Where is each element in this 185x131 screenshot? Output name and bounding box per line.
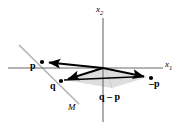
point-label-q: q <box>50 81 56 91</box>
subspace-line-m <box>19 45 79 104</box>
subspace-label-m: M <box>68 103 76 112</box>
point-dot-p <box>40 60 44 64</box>
x1-axis-label: x1 <box>165 60 172 71</box>
point-label-p: p <box>30 61 36 71</box>
diagram-canvas <box>0 0 185 131</box>
x1-axis-label-sub: 1 <box>169 64 172 71</box>
vector-diagram-figure: x2 x1 p q –p q – p M <box>0 0 185 131</box>
difference-label-q-minus-p: q – p <box>99 92 120 102</box>
point-dot-q <box>59 79 63 83</box>
x2-axis-label-sub: 2 <box>100 9 103 16</box>
x2-axis-label: x2 <box>96 5 103 16</box>
vector-arrow-p <box>49 63 103 69</box>
point-label-neg-p: –p <box>149 79 160 89</box>
